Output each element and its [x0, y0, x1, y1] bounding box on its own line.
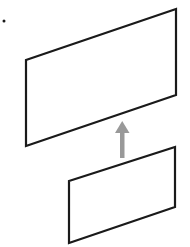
diagram-canvas: [0, 0, 190, 247]
marker-dot: [3, 20, 6, 23]
up-arrow-icon: [115, 121, 130, 158]
upper-plane: [26, 9, 176, 146]
lower-plane: [69, 147, 175, 243]
